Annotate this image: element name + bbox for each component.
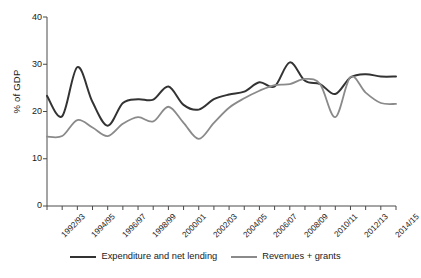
y-tick-label-10: 10 (16, 154, 42, 163)
y-tick-label-0: 0 (16, 201, 42, 210)
y-tick-label-30: 30 (16, 60, 42, 69)
legend-label-revenues: Revenues + grants (262, 252, 340, 261)
axis-lines (47, 17, 396, 206)
legend-item-expenditure: Expenditure and net lending (70, 252, 217, 261)
x-axis-ticks (47, 206, 396, 210)
legend-line-swatch-revenues (231, 256, 257, 258)
chart-legend: Expenditure and net lending Revenues + g… (0, 252, 411, 261)
y-tick-label-40: 40 (16, 13, 42, 22)
y-axis-ticks (43, 17, 47, 206)
legend-label-expenditure: Expenditure and net lending (101, 252, 217, 261)
y-axis-tick-labels: 40 30 20 10 0 (12, 0, 42, 278)
data-series-group (47, 62, 396, 139)
legend-item-revenues: Revenues + grants (231, 252, 340, 261)
y-tick-label-20: 20 (16, 107, 42, 116)
legend-line-swatch-expenditure (70, 256, 96, 258)
